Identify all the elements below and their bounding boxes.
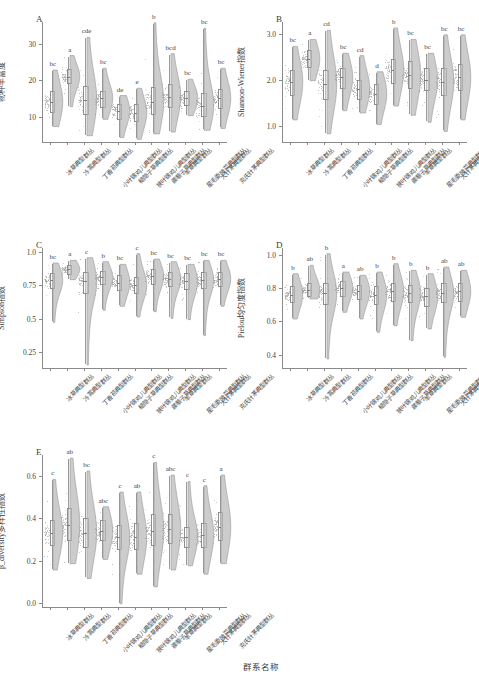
data-point	[50, 532, 51, 533]
data-point	[357, 292, 358, 293]
data-point	[65, 525, 66, 526]
x-tick-mark	[50, 368, 51, 371]
data-point	[322, 291, 323, 292]
data-point	[45, 527, 46, 528]
data-point	[83, 113, 84, 114]
data-point	[287, 299, 288, 300]
data-point	[45, 523, 46, 524]
data-point	[454, 296, 455, 297]
significance-letter: b	[409, 260, 413, 268]
data-point	[323, 288, 324, 289]
data-point	[355, 288, 356, 289]
significance-letter: b	[291, 264, 295, 272]
data-point	[134, 109, 135, 110]
x-tick-mark	[101, 142, 102, 145]
significance-letter: ab	[66, 448, 73, 456]
x-tick-mark	[219, 607, 220, 610]
data-point	[115, 551, 116, 552]
data-point	[438, 300, 439, 301]
data-point	[117, 108, 118, 109]
data-point	[184, 284, 185, 285]
x-tick-mark	[442, 142, 443, 145]
x-tick-mark	[84, 368, 85, 371]
y-axis-title: 物种丰富度	[0, 62, 6, 102]
data-point	[46, 539, 47, 540]
y-tick-mark	[39, 561, 42, 562]
data-point	[163, 542, 164, 543]
significance-letter: c	[203, 476, 206, 484]
violin-shape	[310, 0, 323, 374]
data-point	[458, 70, 459, 71]
data-point	[48, 280, 49, 281]
x-tick-mark	[425, 142, 426, 145]
y-tick-mark	[39, 44, 42, 45]
y-axis-title: β_diversity多样性指数	[0, 493, 6, 569]
significance-letter: a	[342, 262, 345, 270]
data-point	[357, 290, 358, 291]
data-point	[47, 110, 48, 111]
data-point	[214, 526, 215, 527]
data-point	[370, 306, 371, 307]
data-point	[285, 299, 286, 300]
x-tick-mark	[408, 142, 409, 145]
data-point	[167, 529, 168, 530]
data-point	[424, 90, 425, 91]
data-point	[112, 574, 113, 575]
data-point	[97, 539, 98, 540]
data-point	[167, 270, 168, 271]
data-point	[65, 518, 66, 519]
y-axis-line	[42, 455, 43, 607]
data-point	[150, 106, 151, 107]
data-point	[340, 66, 341, 67]
data-point	[46, 295, 47, 296]
y-tick-mark	[279, 321, 282, 322]
data-point	[437, 269, 438, 270]
y-tick-mark	[39, 319, 42, 320]
data-point	[80, 531, 81, 532]
data-point	[100, 512, 101, 513]
x-tick-mark	[84, 142, 85, 145]
data-point	[424, 287, 425, 288]
x-tick-mark	[459, 142, 460, 145]
data-point	[48, 551, 49, 552]
data-point	[404, 299, 405, 300]
data-point	[419, 300, 420, 301]
x-tick-mark	[290, 368, 291, 371]
x-tick-mark	[375, 368, 376, 371]
y-tick-mark	[39, 476, 42, 477]
data-point	[424, 72, 425, 73]
data-point	[340, 283, 341, 284]
data-point	[66, 522, 67, 523]
data-point	[80, 545, 81, 546]
x-tick-mark	[101, 607, 102, 610]
x-tick-mark	[67, 368, 68, 371]
data-point	[180, 544, 181, 545]
data-point	[390, 93, 391, 94]
data-point	[46, 110, 47, 111]
data-point	[372, 296, 373, 297]
data-point	[48, 539, 49, 540]
data-point	[180, 521, 181, 522]
data-point	[131, 526, 132, 527]
data-point	[422, 296, 423, 297]
significance-letter: b	[392, 254, 396, 262]
data-point	[48, 107, 49, 108]
data-point	[167, 94, 168, 95]
data-point	[117, 534, 118, 535]
data-point	[48, 265, 49, 266]
data-point	[149, 527, 150, 528]
data-point	[100, 105, 101, 106]
data-point	[455, 300, 456, 301]
data-point	[81, 530, 82, 531]
data-point	[356, 292, 357, 293]
data-point	[164, 535, 165, 536]
data-point	[438, 289, 439, 290]
data-point	[439, 291, 440, 292]
data-point	[287, 296, 288, 297]
data-point	[47, 101, 48, 102]
data-point	[201, 83, 202, 84]
data-point	[45, 107, 46, 108]
x-tick-mark	[408, 368, 409, 371]
violin-shape	[293, 0, 306, 374]
x-tick-mark	[219, 142, 220, 145]
